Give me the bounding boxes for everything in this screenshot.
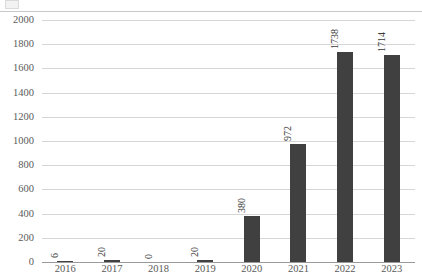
bar-value-label: 0 bbox=[144, 254, 154, 259]
bar-slot: 0 bbox=[135, 20, 182, 262]
y-axis-tick-label: 400 bbox=[0, 208, 34, 219]
y-axis-tick-label: 200 bbox=[0, 233, 34, 244]
bar-slot: 380 bbox=[229, 20, 276, 262]
bar[interactable] bbox=[384, 55, 400, 262]
x-axis-line bbox=[42, 262, 415, 263]
y-axis-tick-label: 2000 bbox=[0, 15, 34, 26]
clipped-page-artifact bbox=[5, 0, 19, 9]
bar-slot: 20 bbox=[182, 20, 229, 262]
bar[interactable] bbox=[57, 261, 73, 262]
bar[interactable] bbox=[104, 260, 120, 262]
y-axis-tick-label: 600 bbox=[0, 184, 34, 195]
bar[interactable] bbox=[197, 260, 213, 262]
bar-value-label: 20 bbox=[190, 247, 200, 257]
bar-slot: 972 bbox=[275, 20, 322, 262]
x-axis-tick-label: 2018 bbox=[135, 264, 182, 275]
x-axis-tick-label: 2023 bbox=[368, 264, 415, 275]
y-axis-tick-label: 0 bbox=[0, 257, 34, 268]
x-axis-tick-label: 2022 bbox=[322, 264, 369, 275]
y-axis-tick-label: 1000 bbox=[0, 136, 34, 147]
bar-value-label: 20 bbox=[97, 247, 107, 257]
bar-chart: 0200400600800100012001400160018002000 62… bbox=[0, 0, 422, 278]
x-axis-tick-label: 2021 bbox=[275, 264, 322, 275]
bar-series: 62002038097217381714 bbox=[42, 20, 415, 262]
bar-value-label: 1738 bbox=[330, 29, 340, 49]
y-axis-tick-label: 1400 bbox=[0, 87, 34, 98]
y-axis-tick-label: 800 bbox=[0, 160, 34, 171]
bar-value-label: 1714 bbox=[377, 32, 387, 52]
bar-slot: 6 bbox=[42, 20, 89, 262]
bar[interactable] bbox=[244, 216, 260, 262]
y-axis-tick-label: 1800 bbox=[0, 39, 34, 50]
bar-value-label: 6 bbox=[50, 253, 60, 258]
bar-value-label: 972 bbox=[283, 126, 293, 141]
x-axis-tick-labels: 20162017201820192020202120222023 bbox=[42, 264, 415, 278]
bar[interactable] bbox=[337, 52, 353, 262]
bar-slot: 20 bbox=[89, 20, 136, 262]
x-axis-tick-label: 2017 bbox=[89, 264, 136, 275]
bar-slot: 1738 bbox=[322, 20, 369, 262]
page-divider bbox=[0, 11, 422, 12]
bar[interactable] bbox=[290, 144, 306, 262]
x-axis-tick-label: 2020 bbox=[229, 264, 276, 275]
y-axis-tick-label: 1200 bbox=[0, 112, 34, 123]
bar-slot: 1714 bbox=[368, 20, 415, 262]
bar-value-label: 380 bbox=[237, 198, 247, 213]
x-axis-tick-label: 2019 bbox=[182, 264, 229, 275]
x-axis-tick-label: 2016 bbox=[42, 264, 89, 275]
y-axis-tick-label: 1600 bbox=[0, 63, 34, 74]
